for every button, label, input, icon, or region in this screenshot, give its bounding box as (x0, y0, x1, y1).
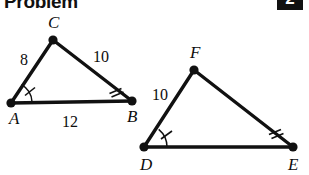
diagram-canvas: Problem 2 A C B 8 10 12 (0, 0, 309, 175)
triangle-abc: A C B 8 10 12 (6, 13, 138, 130)
vertex-label-c: C (48, 13, 60, 32)
side-ab (11, 101, 132, 103)
vertex-label-e: E (287, 155, 299, 174)
vertex-label-b: B (127, 107, 138, 126)
triangle-def: D F E 10 (139, 43, 299, 174)
vertex-label-f: F (189, 43, 201, 62)
vertex-e-dot (288, 142, 297, 151)
geometry-figure: A C B 8 10 12 D F E 10 (0, 0, 309, 175)
vertex-c-dot (48, 35, 57, 44)
side-length-ac: 8 (20, 51, 28, 68)
side-df (144, 70, 194, 147)
vertex-b-dot (127, 96, 136, 105)
vertex-a-dot (6, 98, 15, 107)
side-length-df: 10 (152, 86, 168, 103)
side-length-ab: 12 (62, 113, 78, 130)
side-ac (11, 40, 53, 103)
vertex-label-a: A (8, 109, 20, 128)
vertex-label-d: D (139, 155, 153, 174)
side-length-cb: 10 (93, 48, 109, 65)
vertex-d-dot (139, 142, 148, 151)
vertex-f-dot (189, 65, 198, 74)
